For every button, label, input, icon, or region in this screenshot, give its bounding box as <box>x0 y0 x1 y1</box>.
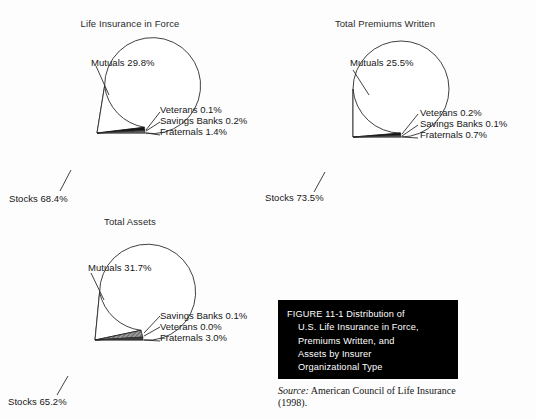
pie-label-mutuals-chart3: Mutuals 31.7% <box>88 262 152 273</box>
pie-chart-total-premiums-written <box>296 82 416 197</box>
figure-caption-line-1: FIGURE 11-1 Distribution of <box>287 309 405 319</box>
pie-label-fraternals-chart3: Fraternals 3.0% <box>160 333 247 344</box>
leader-line-fraternals <box>402 137 418 138</box>
leader-line-fraternals <box>144 340 160 341</box>
pie-callouts-chart3: Savings Banks 0.1% Veterans 0.0% Fratern… <box>160 311 247 343</box>
chart-title-life-insurance-in-force: Life Insurance in Force <box>30 18 230 29</box>
chart-title-total-premiums-written: Total Premiums Written <box>290 18 480 29</box>
chart-title-total-assets: Total Assets <box>60 216 200 227</box>
figure-source: Source: American Council of Life Insuran… <box>278 385 478 410</box>
pie-callouts-chart1: Veterans 0.1% Savings Banks 0.2% Fratern… <box>160 105 247 137</box>
pie-chart-life-insurance-in-force <box>40 78 160 193</box>
leader-line-stocks <box>57 376 68 395</box>
pie-label-mutuals-chart1: Mutuals 29.8% <box>91 57 155 68</box>
figure-caption-line-2: U.S. Life Insurance in Force, <box>287 321 451 334</box>
leader-line-stocks <box>314 172 325 192</box>
pie-callouts-chart2: Veterans 0.2% Savings Banks 0.1% Fratern… <box>420 108 507 140</box>
pie-label-savings-banks-chart2: Savings Banks 0.1% <box>420 119 507 130</box>
leader-line-stocks <box>60 170 71 191</box>
pie-label-savings-banks-chart1: Savings Banks 0.2% <box>160 116 247 127</box>
pie-label-stocks-chart1: Stocks 68.4% <box>9 193 68 204</box>
figure-caption-line-4: Assets by Insurer <box>287 348 451 361</box>
pie-label-mutuals-chart2: Mutuals 25.5% <box>350 57 414 68</box>
figure-caption-text: FIGURE 11-1 Distribution of U.S. Life In… <box>287 308 451 374</box>
pie-chart-total-assets <box>38 285 158 400</box>
pie-label-veterans-chart3: Veterans 0.0% <box>160 322 247 333</box>
figure-caption-line-3: Premiums Written, and <box>287 335 451 348</box>
figure-caption-box: FIGURE 11-1 Distribution of U.S. Life In… <box>278 300 458 379</box>
source-label: Source: <box>278 385 309 396</box>
pie-label-fraternals-chart1: Fraternals 1.4% <box>160 127 247 138</box>
figure-caption-line-5: Organizational Type <box>287 361 451 374</box>
figure-page: Life Insurance in Force Mutuals 29.8% Ve… <box>0 0 536 419</box>
pie-label-stocks-chart3: Stocks 65.2% <box>8 396 67 407</box>
pie-label-stocks-chart2: Stocks 73.5% <box>265 192 324 203</box>
pie-label-fraternals-chart2: Fraternals 0.7% <box>420 130 507 141</box>
